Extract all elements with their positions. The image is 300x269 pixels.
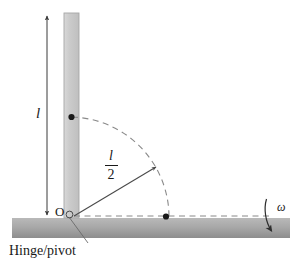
- center-of-mass-start-point: [68, 114, 74, 120]
- half-length-numerator: l: [101, 148, 121, 164]
- hinge-pivot-label: Hinge/pivot: [9, 244, 76, 258]
- angular-velocity-label: ω: [277, 201, 285, 213]
- ground-band: [12, 218, 290, 238]
- fraction-bar: [105, 165, 118, 166]
- length-label: l: [36, 106, 40, 121]
- physics-diagram: l O l 2 ω Hinge/pivot: [0, 0, 300, 269]
- center-of-mass-end-point: [163, 213, 169, 219]
- origin-label: O: [55, 205, 64, 218]
- half-length-denominator: 2: [101, 167, 121, 183]
- diagram-canvas: [0, 0, 300, 269]
- half-length-fraction-label: l 2: [101, 148, 121, 183]
